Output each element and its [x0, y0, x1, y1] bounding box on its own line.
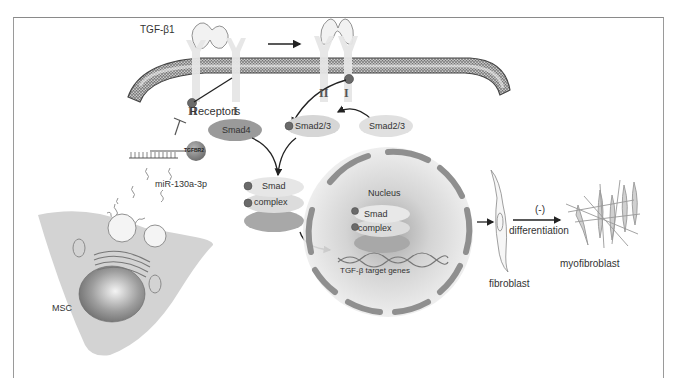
receptor-ii-active-label: II: [319, 86, 328, 101]
tgfbr2-label: TGFBR2: [184, 147, 204, 153]
receptor-i-active-label: I: [344, 86, 349, 101]
myofibroblast-label: myofibroblast: [560, 258, 619, 269]
smad23-merge-arrow: [278, 138, 296, 175]
myofibroblast-cells-icon: [566, 180, 640, 248]
phospho-icon: [345, 75, 354, 84]
tgf-beta1-label: TGF-β1: [140, 24, 175, 35]
exosome-icon: [144, 225, 166, 247]
tgf-beta1-ligand-bound-icon: [321, 19, 353, 44]
inhibition-label: (-): [535, 204, 545, 215]
smad4-merge-line: [252, 138, 278, 175]
receptors-label: Receptors: [190, 105, 240, 117]
exosome-icon: [108, 214, 136, 242]
phospho-icon: [352, 208, 359, 215]
phospho-icon: [244, 182, 252, 190]
msc-cell-icon: [38, 211, 213, 355]
smad-complex-label-line2: complex: [254, 197, 288, 207]
msc-nucleus: [79, 266, 145, 322]
smad-complex-label-line1: Smad: [262, 181, 286, 191]
nuclear-smad-label-line1: Smad: [364, 209, 388, 219]
nucleus-label: Nucleus: [368, 188, 401, 198]
smad23-phospho-label: Smad2/3: [295, 121, 331, 131]
mirna-label: miR-130a-3p: [155, 179, 207, 189]
nuclear-smad-label-line2: complex: [358, 223, 392, 233]
tgf-beta1-ligand-icon: [192, 23, 228, 49]
differentiation-label: differentiation: [509, 225, 569, 236]
inhibition-bar-icon: [174, 118, 186, 135]
target-genes-label: TGF-β target genes: [340, 266, 410, 275]
fibroblast-label: fibroblast: [489, 278, 530, 289]
fibroblast-cell-icon: [491, 170, 508, 272]
smad4-label: Smad4: [222, 125, 251, 135]
smad23-label: Smad2/3: [369, 121, 405, 131]
phospho-icon: [285, 122, 293, 130]
msc-label: MSC: [52, 303, 72, 313]
phospho-icon: [244, 199, 252, 207]
